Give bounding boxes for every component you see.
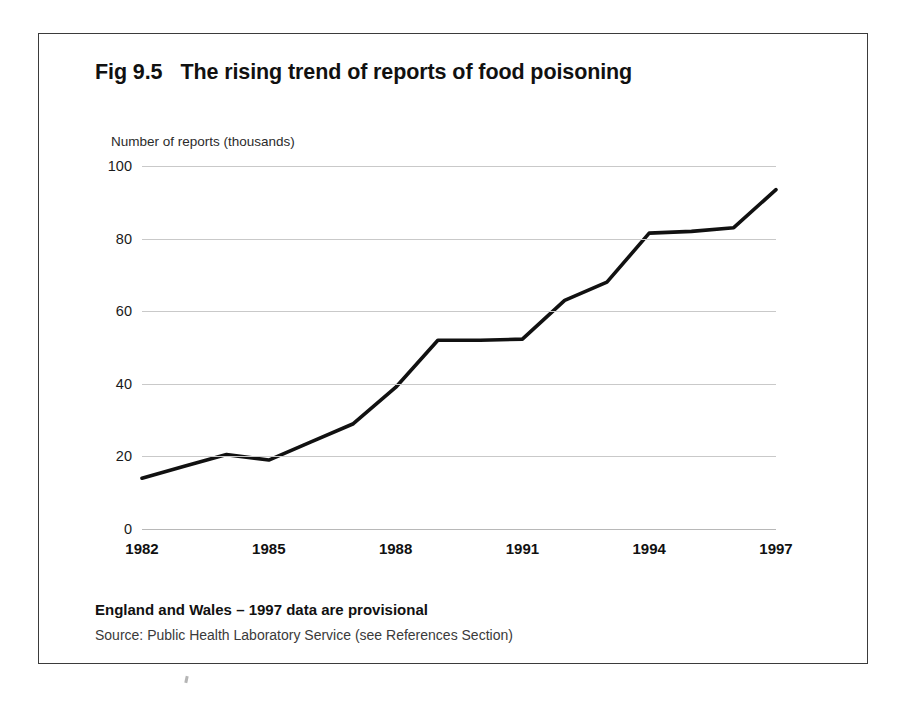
- figure-footnote: England and Wales – 1997 data are provis…: [95, 601, 428, 618]
- page-speck: [184, 676, 188, 683]
- data-series-line: [142, 190, 776, 479]
- gridline-60: [142, 311, 776, 312]
- y-tick-label-20: 20: [86, 448, 132, 464]
- y-tick-label-80: 80: [86, 231, 132, 247]
- gridline-40: [142, 384, 776, 385]
- x-tick-label-1997: 1997: [759, 540, 792, 557]
- figure-panel: Fig 9.5The rising trend of reports of fo…: [38, 33, 868, 664]
- gridline-80: [142, 239, 776, 240]
- gridline-20: [142, 456, 776, 457]
- x-tick-label-1988: 1988: [379, 540, 412, 557]
- x-tick-label-1991: 1991: [506, 540, 539, 557]
- y-tick-label-40: 40: [86, 376, 132, 392]
- plot-area: 020406080100198219851988199119941997: [39, 34, 869, 665]
- x-tick-label-1994: 1994: [633, 540, 666, 557]
- gridline-0: [142, 529, 776, 530]
- x-tick-label-1985: 1985: [252, 540, 285, 557]
- data-line-chart: [39, 34, 869, 665]
- figure-source: Source: Public Health Laboratory Service…: [95, 627, 513, 643]
- y-tick-label-100: 100: [86, 158, 132, 174]
- gridline-100: [142, 166, 776, 167]
- y-tick-label-60: 60: [86, 303, 132, 319]
- y-tick-label-0: 0: [86, 521, 132, 537]
- x-tick-label-1982: 1982: [125, 540, 158, 557]
